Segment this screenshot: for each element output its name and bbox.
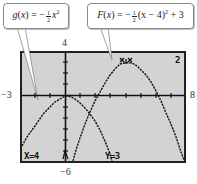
- f-curve: [73, 63, 184, 162]
- f-function-label: F(x) = −12(x − 4)2 + 3: [97, 9, 183, 23]
- fraction-one-half: 12: [46, 10, 51, 23]
- g-function-label: g(x) = −12x2: [13, 9, 60, 23]
- fraction-one-half: 12: [132, 10, 137, 23]
- trace-x-readout: X=4: [24, 151, 39, 161]
- g-callout-pointer: [17, 27, 38, 100]
- trace-y-readout: Y=3: [105, 151, 120, 161]
- f-function-callout: F(x) = −12(x − 4)2 + 3: [87, 3, 194, 29]
- g-function-callout: g(x) = −12x2: [3, 3, 69, 29]
- graph-index-indicator: 2: [175, 55, 180, 65]
- f-callout-pointer: [100, 27, 112, 60]
